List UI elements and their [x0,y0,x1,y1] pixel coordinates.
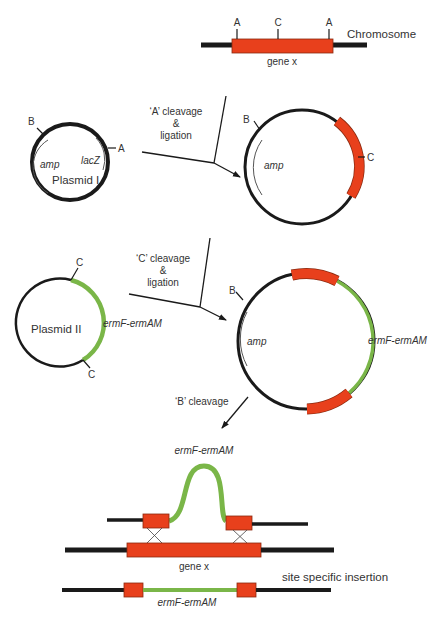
chromosome: A C A Chromosome gene x [201,17,416,67]
result-gene-left [124,583,143,597]
chromosome-gene-x [127,543,261,557]
step-b-label: ‘B’ cleavage [175,396,229,407]
amp-arc [253,140,262,195]
plasmid-2-site-c-bottom: C [88,369,95,380]
homologous-crossover: ermF-ermAM gene x [65,445,334,572]
step-c-cleavage: ‘C’ cleavage & ligation [129,238,226,320]
plasmid-2-insert-label: ermF-ermAM [103,318,163,329]
arrow-icon [200,307,226,320]
plasmid-2: C C ermF-ermAM Plasmid II [16,257,163,380]
gene-x-label: gene x [267,56,297,67]
crossover-insert-loop [169,466,226,521]
plasmid-1-site-a: A [118,143,125,154]
arrow-icon [214,163,240,177]
plasmid-1: B A amp lacZ Plasmid I [28,116,125,200]
recombinant-2-insert-label: ermF-ermAM [368,335,428,346]
homology-arm-right [226,516,252,530]
step-a-label-3: ligation [160,130,192,141]
homology-arm-left [143,514,169,528]
site-specific-insertion: site specific insertion ermF-ermAM [62,571,388,608]
plasmid-1-lacz-label: lacZ [81,155,101,166]
step-c-label-3: ligation [147,277,179,288]
step-c-label-2: & [160,265,167,276]
chromosome-label: Chromosome [347,28,416,40]
result-insert-label: ermF-ermAM [158,597,218,608]
recombinant-plasmid-1: B C amp [243,110,374,224]
plasmid-1-site-b: B [28,116,35,127]
gene-x-block [232,39,333,53]
site-label-a1: A [234,17,241,28]
plasmid-2-site-c-top: C [76,257,83,268]
plasmid-1-name: Plasmid I [52,174,99,186]
step-a-label-1: ‘A’ cleavage [150,106,203,117]
gene-x-fragment-2 [307,393,349,409]
result-title: site specific insertion [282,571,388,583]
crossover-insert-label: ermF-ermAM [175,445,235,456]
crossover-gene-label: gene x [179,561,209,572]
plasmid-1-amp-label: amp [40,159,60,170]
gene-insertion-diagram: A C A Chromosome gene x B A amp lacZ Pla… [0,0,445,618]
site-label-a2: A [326,17,333,28]
step-a-cleavage: ‘A’ cleavage & ligation [142,96,240,177]
recombinant-1-site-c: C [367,152,374,163]
site-label-c: C [274,17,281,28]
result-gene-right [237,583,256,597]
plasmid-2-name: Plasmid II [31,323,82,335]
gene-x-fragment-1 [292,274,337,281]
recombinant-2-site-b: B [229,285,236,296]
recombinant-plasmid-2: B amp ermF-ermAM [229,273,428,409]
plasmid-2-insert [71,280,104,360]
step-a-label-2: & [173,118,180,129]
gene-x-fragment [337,121,359,196]
recombinant-1-amp-label: amp [264,160,284,171]
recombinant-1-site-b: B [243,114,250,125]
step-c-label-1: ‘C’ cleavage [136,253,191,264]
recombinant-2-amp-label: amp [247,336,267,347]
step-b-cleavage: ‘B’ cleavage [175,396,248,428]
